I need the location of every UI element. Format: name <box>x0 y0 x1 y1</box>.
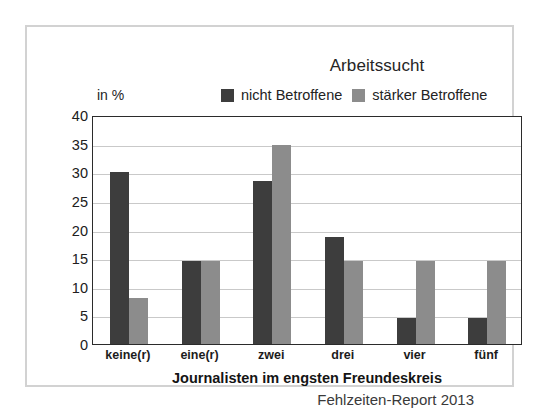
x-axis-title: Journalisten im engsten Freundeskreis <box>92 370 522 386</box>
bar-group <box>253 117 291 344</box>
y-tick-label: 35 <box>72 137 88 152</box>
y-axis: 0510152025303540 <box>52 116 88 345</box>
bar-nicht-betroffene <box>397 318 416 344</box>
legend-entry-nicht-betroffene: nicht Betroffene <box>221 88 342 103</box>
legend-swatch-light-icon <box>352 89 365 102</box>
legend-label-staerker-betroffene: stärker Betroffene <box>372 88 487 103</box>
x-tick-label: zwei <box>258 348 284 362</box>
x-tick-label: eine(r) <box>180 348 218 362</box>
source-note: Fehlzeiten-Report 2013 <box>317 391 474 408</box>
figure-frame: Arbeitssucht nicht Betroffene stärker Be… <box>25 25 514 387</box>
y-tick-label: 5 <box>80 309 88 324</box>
legend-label-nicht-betroffene: nicht Betroffene <box>241 88 342 103</box>
x-tick-label: drei <box>331 348 354 362</box>
x-tick-label: fünf <box>474 348 498 362</box>
legend-swatch-dark-icon <box>221 89 234 102</box>
y-axis-unit-label: in % <box>97 87 124 103</box>
bar-staerker-betroffene <box>487 261 506 344</box>
bar-staerker-betroffene <box>344 261 363 344</box>
x-tick-label: vier <box>403 348 425 362</box>
bar-nicht-betroffene <box>253 181 272 344</box>
y-tick-label: 0 <box>80 338 88 353</box>
bar-group <box>182 117 220 344</box>
y-tick-label: 15 <box>72 252 88 267</box>
x-tick-label: keine(r) <box>105 348 150 362</box>
y-tick-label: 40 <box>72 109 88 124</box>
bar-nicht-betroffene <box>110 172 129 344</box>
legend-entry-staerker-betroffene: stärker Betroffene <box>352 88 487 103</box>
bars-layer <box>93 117 521 344</box>
chart-title: Arbeitssucht <box>277 56 477 76</box>
bar-group <box>325 117 363 344</box>
bar-nicht-betroffene <box>468 318 487 344</box>
bar-group <box>110 117 148 344</box>
bar-staerker-betroffene <box>272 145 291 344</box>
y-tick-label: 20 <box>72 223 88 238</box>
bar-nicht-betroffene <box>182 261 201 344</box>
x-axis-labels: keine(r)eine(r)zweidreivierfünf <box>92 348 522 366</box>
bar-staerker-betroffene <box>129 298 148 344</box>
bar-staerker-betroffene <box>416 261 435 344</box>
y-tick-label: 30 <box>72 166 88 181</box>
y-tick-label: 25 <box>72 195 88 210</box>
bar-staerker-betroffene <box>201 261 220 344</box>
bar-group <box>468 117 506 344</box>
bar-group <box>397 117 435 344</box>
y-tick-label: 10 <box>72 281 88 296</box>
bar-nicht-betroffene <box>325 237 344 344</box>
chart-legend: nicht Betroffene stärker Betroffene <box>221 88 487 103</box>
plot-area <box>92 116 522 345</box>
